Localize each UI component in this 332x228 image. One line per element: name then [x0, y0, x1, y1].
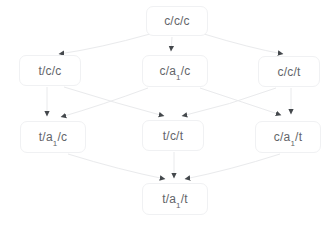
edge-ca1t-to-ta1t [185, 154, 280, 179]
node-label: t/c/c [38, 64, 61, 78]
node-label: c/a1/c [160, 64, 191, 78]
node-label-text: c/c/t [277, 65, 300, 79]
node-label-text: t/c/c [38, 64, 61, 78]
node-label-subscript: 1 [290, 139, 295, 148]
node-label-text: /c [57, 130, 67, 144]
node-label: c/c/c [164, 14, 190, 28]
edge-ca1c-to-ta1c [61, 88, 148, 117]
node-label-text: t/a [39, 130, 53, 144]
node-label: t/a1/c [39, 130, 67, 144]
node-label-subscript: 1 [176, 201, 181, 210]
node-ta1t: t/a1/t [142, 183, 208, 215]
node-ca1c: c/a1/c [142, 55, 208, 87]
node-label: t/a1/t [162, 192, 188, 206]
node-label-text: t/a [162, 192, 176, 206]
node-label-subscript: 1 [176, 73, 181, 82]
node-label-text: /t [181, 192, 188, 206]
node-ta1c: t/a1/c [20, 121, 86, 153]
node-cct: c/c/t [258, 56, 320, 87]
node-label-text: t/c/t [163, 129, 183, 143]
node-label-text: /t [295, 130, 302, 144]
node-label: c/a1/t [274, 130, 302, 144]
node-label-text: c/c/c [164, 14, 190, 28]
node-ccc: c/c/c [146, 6, 208, 36]
node-label: c/c/t [277, 65, 300, 79]
edge-ccc-to-cct [204, 34, 283, 54]
node-label-text: c/a [160, 64, 177, 78]
node-label-text: c/a [274, 130, 291, 144]
edge-cct-to-tct [182, 88, 276, 116]
node-label-text: /c [181, 64, 191, 78]
edge-ccc-to-tcc [59, 34, 150, 54]
node-ca1t: c/a1/t [255, 121, 321, 153]
state-transition-diagram: c/c/c t/c/c c/a1/c c/c/t t/a1/c t/c/t c/… [0, 0, 332, 228]
node-tct: t/c/t [142, 120, 204, 151]
edge-ccc-to-ca1c [171, 37, 172, 51]
edge-ta1c-to-ta1t [68, 154, 165, 179]
node-label-subscript: 1 [53, 139, 58, 148]
node-label: t/c/t [163, 129, 183, 143]
node-tcc: t/c/c [19, 55, 81, 86]
edge-ca1c-to-ca1t [200, 88, 281, 115]
